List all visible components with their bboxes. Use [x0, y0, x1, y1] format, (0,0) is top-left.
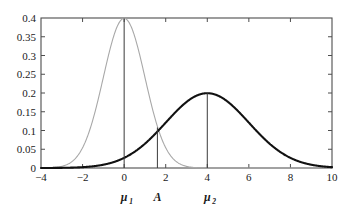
x-tick-label: −2 [77, 171, 89, 183]
y-tick-label: 0.25 [17, 68, 37, 80]
x-tick-label: 4 [205, 171, 211, 183]
x-tick-label: 10 [327, 171, 339, 183]
marker-label-text: A [152, 190, 161, 204]
x-tick-label: 2 [163, 171, 169, 183]
marker-label-threshold-A: A [152, 190, 161, 204]
y-tick-label: 0.1 [22, 125, 36, 137]
chart-background [0, 0, 350, 208]
x-tick-label: 6 [246, 171, 252, 183]
y-tick-label: 0.05 [17, 143, 37, 155]
x-tick-label: 0 [121, 171, 127, 183]
y-tick-label: 0.15 [17, 106, 37, 118]
x-tick-label: −4 [35, 171, 47, 183]
chart-canvas: −4−20246810 00.050.10.150.20.250.30.350.… [0, 0, 350, 208]
y-tick-label: 0.3 [22, 50, 36, 62]
y-tick-label: 0.35 [17, 31, 37, 43]
marker-label-subscript: 2 [211, 197, 216, 206]
y-tick-label: 0 [31, 162, 37, 174]
y-tick-label: 0.2 [22, 87, 36, 99]
marker-label-text: μ [203, 190, 211, 204]
marker-label-text: μ [120, 190, 128, 204]
x-tick-label: 8 [288, 171, 294, 183]
marker-label-subscript: 1 [129, 197, 133, 206]
gaussian-distributions-figure: −4−20246810 00.050.10.150.20.250.30.350.… [0, 0, 350, 208]
y-tick-label: 0.4 [22, 12, 36, 24]
